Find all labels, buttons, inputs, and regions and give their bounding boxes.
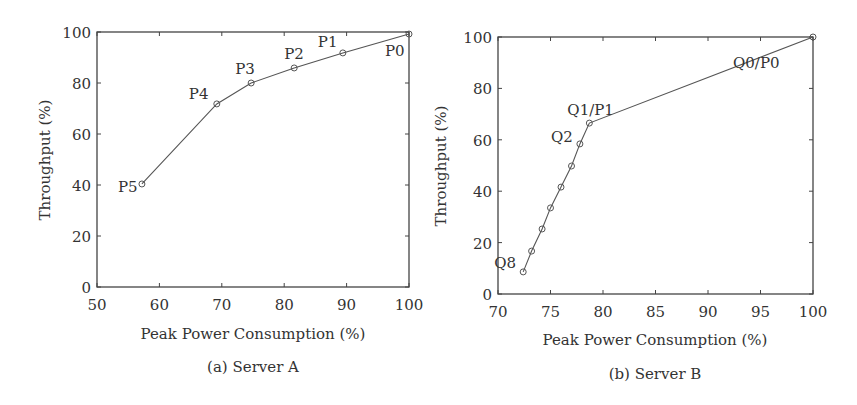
x-tick-label: 50 <box>87 296 106 314</box>
point-label: Q2 <box>551 128 573 146</box>
axis-ticks <box>498 37 813 294</box>
x-tick-label: 70 <box>212 296 231 314</box>
y-axis-label: Throughput (%) <box>36 100 54 221</box>
y-tick-label: 40 <box>473 183 492 201</box>
plot-frame <box>498 37 813 294</box>
y-tick-label: 20 <box>473 235 492 253</box>
y-tick-label: 60 <box>473 132 492 150</box>
point-label: Q0/P0 <box>733 54 780 72</box>
point-label: P2 <box>284 45 304 63</box>
y-tick-label: 100 <box>463 29 492 47</box>
point-label: P1 <box>318 33 338 51</box>
y-tick-label: 80 <box>72 75 91 93</box>
y-axis-label: Throughput (%) <box>432 106 450 227</box>
point-label: Q1/P1 <box>567 101 614 119</box>
x-tick-label: 70 <box>488 303 507 321</box>
point-label: Q8 <box>494 254 516 272</box>
x-tick-label: 100 <box>799 303 828 321</box>
point-labels: P5P4P3P2P1P0 <box>118 33 405 196</box>
series-line <box>142 34 409 184</box>
x-tick-label: 95 <box>751 303 770 321</box>
y-tick-label: 80 <box>473 80 492 98</box>
point-label: P4 <box>189 85 209 103</box>
x-axis-label: Peak Power Consumption (%) <box>543 331 768 349</box>
x-tick-label: 80 <box>275 296 294 314</box>
y-tick-label: 0 <box>482 286 492 304</box>
y-tick-label: 60 <box>72 126 91 144</box>
tick-labels: 707580859095100020406080100 <box>463 29 827 321</box>
y-tick-label: 100 <box>62 24 91 42</box>
y-tick-label: 0 <box>81 279 91 297</box>
x-tick-label: 60 <box>150 296 169 314</box>
x-tick-label: 85 <box>646 303 665 321</box>
point-label: P3 <box>235 60 255 78</box>
figure: 5060708090100020406080100 P5P4P3P2P1P0 P… <box>0 0 857 405</box>
chart-caption: (a) Server A <box>207 358 299 376</box>
y-tick-label: 40 <box>72 177 91 195</box>
point-label: P0 <box>385 42 405 60</box>
chart-server-a: 5060708090100020406080100 P5P4P3P2P1P0 P… <box>36 24 423 376</box>
y-tick-label: 20 <box>72 228 91 246</box>
x-tick-label: 100 <box>395 296 424 314</box>
x-tick-label: 90 <box>337 296 356 314</box>
x-tick-label: 90 <box>698 303 717 321</box>
x-axis-label: Peak Power Consumption (%) <box>141 325 366 343</box>
chart-caption: (b) Server B <box>609 365 702 383</box>
x-tick-label: 75 <box>541 303 560 321</box>
series-line <box>523 37 813 272</box>
point-label: P5 <box>118 178 138 196</box>
x-tick-label: 80 <box>593 303 612 321</box>
series-markers <box>139 31 412 187</box>
chart-server-b: 707580859095100020406080100 Q8Q2Q1/P1Q0/… <box>432 29 827 383</box>
